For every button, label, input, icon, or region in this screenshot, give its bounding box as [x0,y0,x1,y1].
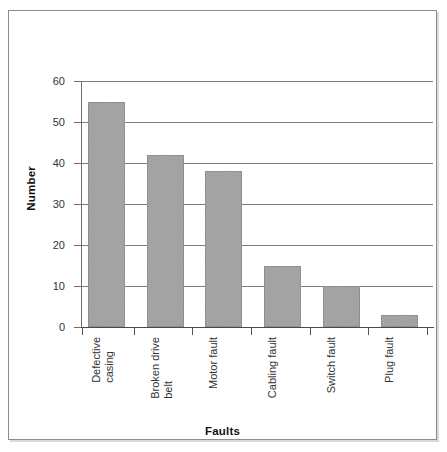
x-axis-category-label: Defective casing [90,337,115,383]
y-axis-tick [74,327,81,328]
x-axis-title: Faults [9,425,436,437]
y-axis-tick [74,204,81,205]
y-axis-title: Number [25,166,37,211]
x-axis-category-label: Motor fault [207,337,220,389]
y-axis-tick-label: 10 [9,281,65,292]
bar [381,315,418,327]
bar [205,171,242,327]
plot-area [81,81,433,327]
y-axis-tick-label: 40 [9,158,65,169]
chart-figure-frame: 0102030405060 Defective casingBroken dri… [8,10,437,440]
x-axis-tick [82,327,83,335]
y-axis-tick-label: 50 [9,117,65,128]
y-axis-tick [74,81,81,82]
y-axis-tick-label: 0 [9,322,65,333]
x-axis-category-label: Cabling fault [266,337,279,398]
y-axis-tick-label: 30 [9,199,65,210]
y-axis-tick [74,286,81,287]
x-axis-tick [368,327,369,335]
x-axis-tick [251,327,252,335]
x-axis-tick [192,327,193,335]
x-axis-tick [427,327,428,335]
y-axis-tick [74,163,81,164]
bar [88,102,125,328]
y-axis-tick-label: 60 [9,76,65,87]
x-axis-category-label: Plug fault [383,337,396,383]
x-axis-category-label: Broken drive belt [149,337,174,399]
y-axis-tick [74,122,81,123]
y-axis-tick [74,245,81,246]
y-axis-tick-label: 20 [9,240,65,251]
x-axis-tick [134,327,135,335]
bar [147,155,184,327]
x-axis-category-label: Switch fault [325,337,338,393]
bar [323,286,360,327]
x-axis-tick [310,327,311,335]
bar [264,266,301,328]
